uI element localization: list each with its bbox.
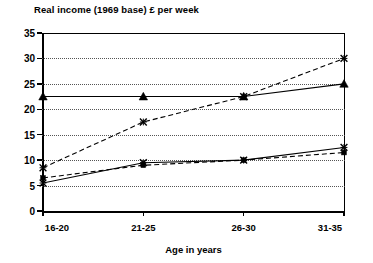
x-axis-label-16-20: 16-20 xyxy=(45,222,69,233)
data-series-layer xyxy=(42,33,345,211)
series-cross-dashed-marker xyxy=(240,93,247,100)
series-cross-dashed-marker xyxy=(140,119,147,126)
series-dot-dashed-marker xyxy=(41,176,46,181)
series-cross-dashed-marker xyxy=(40,164,47,171)
series-triangle-solid-marker xyxy=(340,80,348,88)
series-cross-dashed-line xyxy=(43,58,344,167)
series-dot-dashed xyxy=(41,150,347,180)
y-axis-label-25: 25 xyxy=(24,78,35,89)
y-axis-label-15: 15 xyxy=(24,129,35,140)
x-tick-31-35 xyxy=(343,211,345,216)
y-axis-label-35: 35 xyxy=(24,28,35,39)
x-axis-label-26-30: 26-30 xyxy=(232,222,256,233)
y-axis-label-30: 30 xyxy=(24,53,35,64)
series-dot-dashed-marker xyxy=(342,150,347,155)
x-axis-title: Age in years xyxy=(42,244,345,255)
x-axis-line xyxy=(42,211,345,213)
chart-container: Real income (1969 base) £ per week 05101… xyxy=(0,0,373,263)
y-axis-label-0: 0 xyxy=(29,206,35,217)
series-cross-solid xyxy=(40,144,348,186)
x-tick-21-25 xyxy=(143,211,145,216)
x-tick-16-20 xyxy=(42,211,44,216)
series-cross-dashed xyxy=(40,55,348,171)
series-triangle-solid xyxy=(39,80,348,100)
series-dot-dashed-marker xyxy=(141,163,146,168)
series-cross-dashed-marker xyxy=(341,55,348,62)
series-cross-solid-line xyxy=(43,147,344,183)
x-axis-label-21-25: 21-25 xyxy=(131,222,155,233)
y-axis-label-10: 10 xyxy=(24,155,35,166)
plot-area: 05101520253035 16-2021-2526-3031-35 Age … xyxy=(42,33,345,211)
y-axis-label-5: 5 xyxy=(29,180,35,191)
series-cross-solid-marker xyxy=(40,180,47,187)
y-axis-label-20: 20 xyxy=(24,104,35,115)
series-cross-solid-marker xyxy=(341,144,348,151)
x-tick-26-30 xyxy=(243,211,245,216)
series-triangle-solid-line xyxy=(43,84,344,97)
series-dot-dashed-marker xyxy=(241,158,246,163)
chart-title: Real income (1969 base) £ per week xyxy=(34,4,199,15)
x-axis-label-31-35: 31-35 xyxy=(318,222,342,233)
